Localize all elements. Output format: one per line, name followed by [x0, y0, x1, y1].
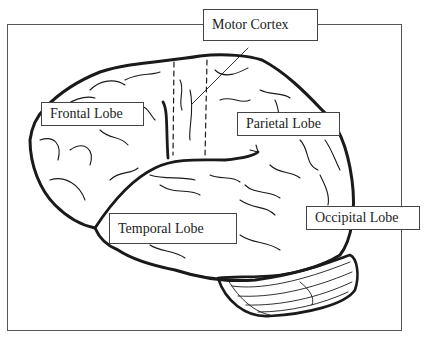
brain-illustration	[0, 0, 427, 341]
label-parietal-lobe: Parietal Lobe	[237, 112, 340, 136]
motor-cortex-boundary-back	[205, 60, 207, 158]
label-frontal-lobe: Frontal Lobe	[41, 102, 144, 126]
label-motor-cortex: Motor Cortex	[203, 9, 318, 41]
label-temporal-lobe: Temporal Lobe	[109, 213, 237, 244]
label-occipital-lobe: Occipital Lobe	[306, 206, 420, 230]
cerebellum	[218, 255, 357, 316]
cortex-outline	[30, 55, 354, 281]
central-sulcus	[163, 102, 168, 158]
motor-cortex-boundary-front	[173, 62, 174, 155]
